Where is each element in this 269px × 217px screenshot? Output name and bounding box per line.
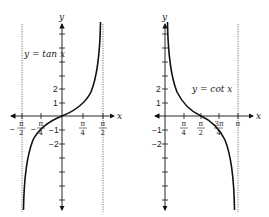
- svg-text:π: π: [182, 120, 187, 128]
- y-label-neg2: −2: [152, 139, 162, 149]
- y-label-1: 1: [53, 98, 58, 108]
- y-label-2: 2: [53, 84, 58, 94]
- y-axis-label: y: [161, 12, 168, 22]
- x-label-quarter-pi: π 4: [79, 120, 87, 137]
- y-label-2: 2: [156, 84, 161, 94]
- svg-text:−: −: [31, 124, 36, 134]
- svg-text:2: 2: [19, 129, 23, 137]
- x-label-half-pi: π 2: [197, 120, 205, 137]
- svg-text:π: π: [199, 120, 204, 128]
- x-label-half-pi: π 2: [99, 120, 107, 137]
- x-label-quarter-pi: π 4: [180, 120, 188, 137]
- svg-text:−: −: [10, 124, 15, 134]
- svg-text:2: 2: [101, 129, 105, 137]
- svg-text:π: π: [101, 120, 106, 128]
- trig-graphs: x y 2 1 −1 −2: [0, 0, 269, 217]
- y-axis-label: y: [58, 12, 65, 22]
- svg-text:π: π: [19, 120, 24, 128]
- svg-text:π: π: [236, 120, 241, 128]
- y-label-neg2: −2: [49, 139, 59, 149]
- y-label-neg1: −1: [49, 125, 59, 135]
- y-label-neg1: −1: [152, 125, 162, 135]
- svg-text:4: 4: [81, 129, 86, 137]
- x-label-neg-quarter-pi: − π 4: [31, 120, 45, 137]
- tan-graph: x y 2 1 −1 −2: [10, 12, 122, 212]
- equation-label-cot: y = cot x: [191, 84, 232, 94]
- x-label-pi: π: [236, 120, 241, 128]
- x-axis-label: x: [117, 111, 122, 121]
- cot-graph: x y 2 1 −1 −2: [152, 12, 261, 212]
- x-label-neg-half-pi: − π 2: [10, 120, 26, 137]
- x-axis-label: x: [256, 111, 261, 121]
- y-label-1: 1: [156, 98, 161, 108]
- svg-text:π: π: [81, 120, 86, 128]
- svg-text:2: 2: [199, 129, 203, 137]
- svg-text:4: 4: [182, 129, 187, 137]
- equation-label-tan: y = tan x: [23, 49, 65, 59]
